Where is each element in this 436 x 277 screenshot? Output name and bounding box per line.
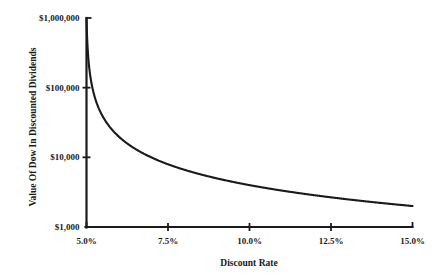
x-tick-label: 15.0% [400, 236, 425, 246]
chart-plot-area [0, 0, 436, 277]
x-axis-title: Discount Rate [86, 258, 412, 268]
y-tick-label: $1,000,000 [39, 13, 80, 23]
y-tick-label: $100,000 [46, 83, 80, 93]
x-tick-label: 5.0% [76, 236, 96, 246]
chart-container: $1,000,000$100,000$10,000$1,000 5.0%7.5%… [0, 0, 436, 277]
x-tick-label: 10.0% [237, 236, 262, 246]
y-tick-label: $10,000 [50, 152, 79, 162]
x-tick-label: 7.5% [158, 236, 178, 246]
y-tick-label: $1,000 [55, 222, 80, 232]
data-series-line [87, 18, 413, 206]
y-axis-title: Value Of Dow In Discounted Dividends [28, 22, 38, 232]
x-tick-label: 12.5% [319, 236, 344, 246]
axis-lines [86, 18, 413, 228]
